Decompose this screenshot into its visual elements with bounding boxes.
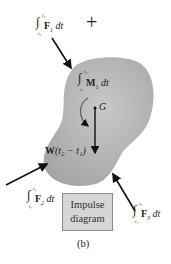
center-of-mass-point bbox=[94, 107, 97, 110]
integral-sign: ∫ bbox=[133, 203, 137, 216]
arrow-F3 bbox=[113, 174, 135, 211]
label-G: G bbox=[99, 101, 106, 112]
lower-limit: t₁ bbox=[29, 204, 32, 209]
integral-sign: ∫ bbox=[36, 15, 40, 28]
label-weight-impulse: W(t₂ − t₁) bbox=[45, 145, 86, 156]
box-label-line2: diagram bbox=[63, 212, 112, 226]
label-F1: F1 dt bbox=[44, 20, 63, 33]
impulse-diagram-box: Impulse diagram bbox=[62, 193, 113, 231]
integral-sign: ∫ bbox=[27, 188, 31, 201]
lower-limit: t₁ bbox=[80, 87, 83, 92]
figure-caption: (b) bbox=[77, 238, 89, 249]
upper-limit: t₂ bbox=[139, 201, 142, 206]
label-F2: F2 dt bbox=[35, 193, 54, 206]
arrow-F1 bbox=[52, 38, 71, 68]
integral-sign: ∫ bbox=[78, 71, 82, 84]
plus-sign: + bbox=[86, 12, 97, 32]
upper-limit: t₂ bbox=[84, 69, 87, 74]
upper-limit: t₂ bbox=[42, 13, 45, 18]
arrow-F2 bbox=[6, 164, 47, 185]
label-M1: M1 dt bbox=[86, 77, 109, 90]
box-label-line1: Impulse bbox=[63, 198, 112, 212]
label-F3: F3 dt bbox=[141, 208, 160, 221]
upper-limit: t₂ bbox=[33, 186, 36, 191]
lower-limit: t₁ bbox=[135, 219, 138, 224]
lower-limit: t₁ bbox=[38, 31, 41, 36]
